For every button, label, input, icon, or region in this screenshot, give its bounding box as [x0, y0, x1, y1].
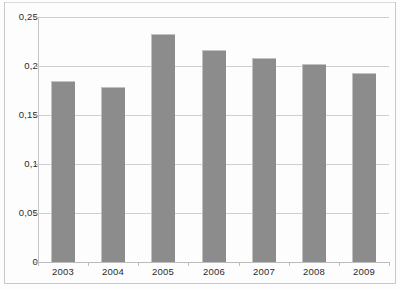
x-axis-tick-mark	[389, 262, 390, 266]
y-axis-tick-label: 0,1	[4, 159, 38, 169]
bar	[302, 64, 326, 262]
scanned-page: 0,250,20,150,10,050 20032004200520062007…	[0, 0, 400, 290]
y-axis-tick-label: 0,15	[4, 110, 38, 120]
gridline	[38, 17, 389, 18]
bar	[252, 58, 276, 262]
x-axis-tick-label: 2004	[88, 266, 138, 277]
bar	[101, 87, 125, 262]
bar	[51, 81, 75, 262]
bar	[151, 34, 175, 262]
x-axis-tick-label: 2008	[289, 266, 339, 277]
x-axis-tick-label: 2003	[38, 266, 88, 277]
y-axis-tick-label: 0,2	[4, 61, 38, 71]
gridline	[38, 262, 389, 263]
y-axis-labels: 0,250,20,150,10,050	[0, 0, 38, 290]
bar	[202, 50, 226, 262]
x-axis-tick-label: 2005	[138, 266, 188, 277]
y-axis-tick-label: 0	[4, 257, 38, 267]
y-axis-tick-label: 0,05	[4, 208, 38, 218]
bar	[352, 73, 376, 262]
y-axis-tick-label: 0,25	[4, 12, 38, 22]
x-axis-tick-label: 2007	[239, 266, 289, 277]
x-axis-tick-label: 2006	[189, 266, 239, 277]
bar-chart: 0,250,20,150,10,050 20032004200520062007…	[0, 0, 400, 290]
x-axis-tick-label: 2009	[339, 266, 389, 277]
